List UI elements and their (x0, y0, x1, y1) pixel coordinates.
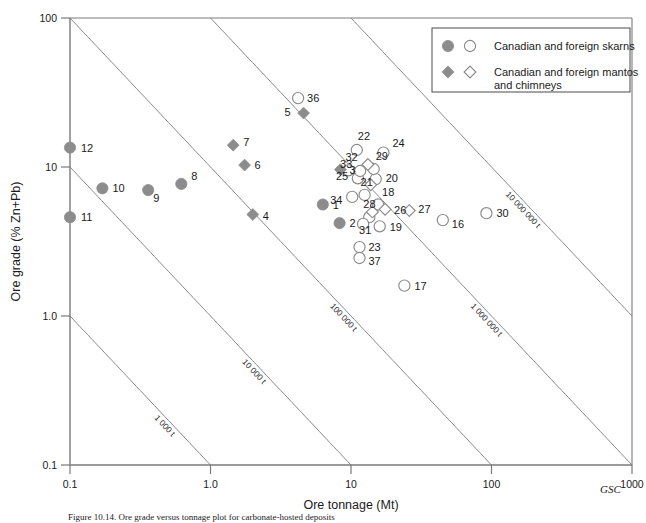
gsc-mark: GSC (600, 483, 621, 495)
point-label-30: 30 (496, 207, 508, 219)
data-point-6-diamond-filled[interactable] (239, 159, 251, 171)
point-label-37: 37 (369, 255, 381, 267)
y-axis-title: Ore grade (% Zn+Pb) (9, 182, 23, 302)
point-label-25: 25 (336, 170, 348, 182)
x-tick-label: 0.1 (63, 478, 78, 490)
point-label-9: 9 (153, 192, 159, 204)
point-label-34: 34 (330, 194, 342, 206)
figure-caption: Figure 10.14. Ore grade versus tonnage p… (68, 512, 588, 522)
point-label-17: 17 (414, 280, 426, 292)
data-point-30-circle-open[interactable] (481, 208, 492, 219)
point-label-4: 4 (263, 210, 269, 222)
point-label-23: 23 (369, 241, 381, 253)
point-label-20: 20 (386, 172, 398, 184)
data-point-16-circle-open[interactable] (437, 215, 448, 226)
data-point-11-circle-filled[interactable] (64, 212, 75, 223)
data-point-19-circle-open[interactable] (374, 221, 385, 232)
legend-marker-open-circle[interactable] (464, 40, 475, 51)
x-tick-label: 10 (345, 478, 357, 490)
grade-tonnage-figure: 1 000 t10 000 t100 000 t1 000 000 t10 00… (0, 0, 646, 523)
point-label-16: 16 (452, 218, 464, 230)
point-label-36: 36 (307, 92, 319, 104)
point-label-29: 29 (376, 150, 388, 162)
point-label-12: 12 (81, 142, 93, 154)
isopleth-label: 10 000 t (240, 357, 268, 386)
data-points-group (64, 93, 492, 292)
data-point-37-circle-open[interactable] (354, 252, 365, 263)
data-point-17-circle-open[interactable] (399, 280, 410, 291)
legend-label-1: Canadian and foreign skarns (494, 40, 635, 52)
data-point-2-circle-filled[interactable] (334, 218, 345, 229)
point-label-6: 6 (255, 159, 261, 171)
x-tick-label: 100 (483, 478, 501, 490)
data-point-34-circle-open[interactable] (347, 191, 358, 202)
data-point-1-circle-filled[interactable] (317, 199, 328, 210)
isopleth-label: 100 000 t (328, 301, 360, 334)
point-label-7: 7 (243, 136, 249, 148)
point-label-24: 24 (392, 137, 404, 149)
point-label-26: 26 (394, 204, 406, 216)
isopleth-label: 1 000 000 t (469, 301, 505, 339)
point-label-31: 31 (359, 224, 371, 236)
point-label-19: 19 (390, 221, 402, 233)
point-label-10: 10 (112, 182, 124, 194)
axis-titles-group: Ore tonnage (Mt)Ore grade (% Zn+Pb) (9, 182, 399, 512)
x-tick-label: 1.0 (203, 478, 218, 490)
point-label-8: 8 (191, 170, 197, 182)
x-tick-label: 1000 (620, 478, 644, 490)
point-label-11: 11 (81, 211, 92, 223)
point-label-27: 27 (418, 203, 430, 215)
data-point-23-circle-open[interactable] (354, 242, 365, 253)
y-tick-label: 10 (45, 161, 57, 173)
point-label-3: 3 (349, 164, 355, 176)
data-point-5-diamond-filled[interactable] (298, 107, 310, 119)
data-point-8-circle-filled[interactable] (176, 178, 187, 189)
data-point-10-circle-filled[interactable] (97, 183, 108, 194)
data-point-4-diamond-filled[interactable] (247, 209, 259, 221)
point-label-28: 28 (363, 198, 375, 210)
data-point-36-circle-open[interactable] (293, 93, 304, 104)
point-label-5: 5 (285, 106, 291, 118)
x-axis-title: Ore tonnage (Mt) (303, 498, 398, 512)
point-label-18: 18 (382, 186, 394, 198)
data-point-9-circle-filled[interactable] (143, 185, 154, 196)
scatter-plot-svg: 1 000 t10 000 t100 000 t1 000 000 t10 00… (0, 0, 646, 523)
point-label-22: 22 (358, 130, 370, 142)
legend-marker-filled-circle[interactable] (442, 40, 453, 51)
point-label-21: 21 (361, 176, 373, 188)
y-tick-label: 0.1 (42, 459, 57, 471)
y-tick-label: 100 (39, 12, 57, 24)
legend-group[interactable]: Canadian and foreign skarnsCanadian and … (432, 28, 639, 92)
y-tick-label: 1.0 (42, 310, 57, 322)
data-point-12-circle-filled[interactable] (64, 142, 75, 153)
point-label-2: 2 (350, 217, 356, 229)
isopleth-label: 10 000 000 t (504, 189, 544, 230)
data-point-7-diamond-filled[interactable] (227, 139, 239, 151)
